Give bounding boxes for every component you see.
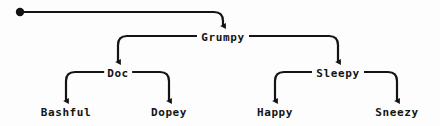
edge-doc-to-bashful [66,72,106,101]
node-grumpy[interactable]: Grumpy [198,32,247,44]
edge-doc-to-dopey [130,72,169,101]
edge-root-to-grumpy [22,12,223,26]
edge-sleepy-to-happy [275,72,312,101]
node-doc[interactable]: Doc [104,68,132,80]
edge-grumpy-to-doc [118,36,197,62]
edge-sleepy-to-sneezy [364,72,397,101]
node-happy[interactable]: Happy [257,107,293,119]
edge-grumpy-to-sleepy [249,36,338,62]
node-sneezy[interactable]: Sneezy [375,107,418,119]
node-sleepy[interactable]: Sleepy [313,68,362,80]
tree-diagram-canvas: Grumpy Doc Sleepy Bashful Dopey Happy Sn… [0,0,440,126]
node-dopey[interactable]: Dopey [151,107,187,119]
node-bashful[interactable]: Bashful [41,107,92,119]
